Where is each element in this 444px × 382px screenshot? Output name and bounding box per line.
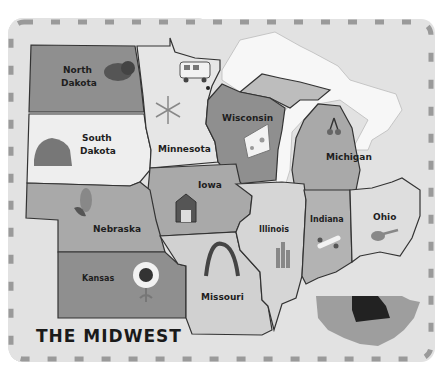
label-minnesota: Minnesota [158, 144, 211, 154]
label-indiana: Indiana [310, 215, 344, 224]
label-ohio: Ohio [373, 212, 396, 222]
label-wisconsin: Wisconsin [222, 113, 273, 123]
label-south-dakota-line2: Dakota [80, 146, 116, 156]
label-north-dakota-line1: North [63, 65, 92, 75]
label-illinois: Illinois [259, 225, 289, 234]
midwest-map: North Dakota South Dakota Minnesota Wisc… [0, 0, 444, 382]
state-kansas[interactable] [58, 252, 186, 318]
label-south-dakota-line1: South [82, 133, 112, 143]
map-title: THE MIDWEST [36, 326, 182, 346]
label-iowa: Iowa [198, 180, 222, 190]
label-nebraska: Nebraska [93, 224, 141, 234]
city-dot [206, 86, 210, 90]
state-iowa[interactable] [148, 164, 252, 236]
label-north-dakota-line2: Dakota [61, 78, 97, 88]
label-missouri: Missouri [201, 292, 244, 302]
label-kansas: Kansas [82, 274, 114, 283]
label-michigan: Michigan [326, 152, 372, 162]
